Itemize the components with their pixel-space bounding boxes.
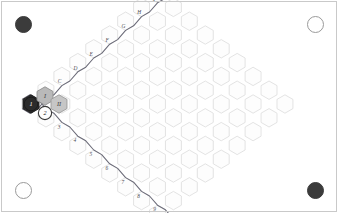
lattice-hexagon xyxy=(150,150,166,168)
lattice-hexagon xyxy=(229,109,245,127)
lattice-hexagon xyxy=(165,164,181,182)
lattice-hexagon xyxy=(70,109,86,127)
lattice-hexagon xyxy=(277,95,293,113)
boundary-label: E xyxy=(89,51,94,57)
lattice-hexagon xyxy=(197,53,213,71)
lattice-hexagon xyxy=(86,95,102,113)
lattice-hexagon xyxy=(229,81,245,99)
lattice-hexagon xyxy=(150,67,166,85)
lattice-hexagon xyxy=(165,136,181,154)
lattice-hexagon xyxy=(229,136,245,154)
lattice-hexagon xyxy=(165,81,181,99)
lattice-hexagon xyxy=(165,109,181,127)
lattice-hexagon xyxy=(102,109,118,127)
lattice-hexagon xyxy=(86,122,102,140)
lattice-hexagon xyxy=(197,136,213,154)
lattice-hexagon xyxy=(118,67,134,85)
lattice-hexagon xyxy=(150,178,166,196)
lattice-hexagon xyxy=(213,95,229,113)
lattice-hexagon xyxy=(134,0,150,17)
lattice-hexagon xyxy=(245,122,261,140)
lattice-hexagon xyxy=(118,40,134,58)
boundary-label: 8 xyxy=(137,193,140,199)
lattice-hexagon xyxy=(181,95,197,113)
boundary-label: 6 xyxy=(105,165,108,171)
lattice-hexagon xyxy=(213,67,229,85)
corner-marker-bottom-right xyxy=(307,182,324,199)
corner-marker-top-left xyxy=(15,16,32,33)
lattice-hexagon xyxy=(245,95,261,113)
lattice-hexagon xyxy=(213,40,229,58)
lattice-hexagon xyxy=(181,122,197,140)
lattice-hexagon xyxy=(165,0,181,17)
boundary-label: 7 xyxy=(121,179,124,185)
highlighted-cell-label: 2 xyxy=(43,109,46,116)
lattice-hexagon xyxy=(86,67,102,85)
lattice-hexagon xyxy=(261,109,277,127)
lattice-hexagon xyxy=(134,81,150,99)
lattice-hexagon xyxy=(118,122,134,140)
lattice-hexagon xyxy=(197,26,213,44)
lattice-hexagon xyxy=(197,164,213,182)
boundary-label: F xyxy=(104,37,109,43)
lattice-hexagon xyxy=(245,67,261,85)
highlighted-cells-layer: 1III2 xyxy=(23,87,67,120)
lattice-hexagon xyxy=(261,81,277,99)
lattice-hexagon xyxy=(181,40,197,58)
lattice-hexagon xyxy=(181,150,197,168)
lattice-hexagon xyxy=(181,178,197,196)
lattice-hexagon xyxy=(181,12,197,30)
lattice-hexagon xyxy=(118,150,134,168)
lattice-hexagon xyxy=(134,109,150,127)
lattice-hexagon xyxy=(150,205,166,213)
lattice-hexagon xyxy=(134,136,150,154)
lattice-hexagon xyxy=(229,53,245,71)
lattice-hexagon xyxy=(165,26,181,44)
lattice-hexagon xyxy=(150,95,166,113)
lattice-hexagon xyxy=(213,150,229,168)
lattice-hexagon xyxy=(150,40,166,58)
lattice-hexagon xyxy=(102,136,118,154)
lattice-hexagon xyxy=(150,12,166,30)
lattice-hexagon xyxy=(197,109,213,127)
lattice-hexagon xyxy=(165,191,181,209)
lattice-hexagon xyxy=(134,164,150,182)
boundary-label: I xyxy=(152,0,155,2)
boundary-label: 3 xyxy=(57,124,61,130)
boundary-label: 5 xyxy=(90,151,93,157)
lattice-hexagon xyxy=(165,53,181,71)
boundary-label: C xyxy=(58,78,62,84)
hexagonal-lattice-figure: ABCDEFGHIJK 1234567891011 1III2 xyxy=(0,0,338,213)
lattice-canvas: ABCDEFGHIJK 1234567891011 1III2 xyxy=(0,0,338,213)
lattice-hexagon xyxy=(102,53,118,71)
boundary-label: 9 xyxy=(153,206,156,212)
boundary-label: D xyxy=(73,65,78,71)
lattice-hexagon xyxy=(134,53,150,71)
corner-marker-bottom-left xyxy=(15,182,32,199)
lattice-hexagon xyxy=(181,67,197,85)
corner-marker-top-right xyxy=(307,16,324,33)
lattice-hexagon xyxy=(197,81,213,99)
lattice-hexagon xyxy=(134,26,150,44)
lattice-hexagon xyxy=(150,122,166,140)
lattice-hexagon xyxy=(118,95,134,113)
boundary-label: 4 xyxy=(74,137,77,143)
lattice-hexagon xyxy=(70,81,86,99)
highlighted-cell-label: 1 xyxy=(29,100,32,107)
lattice-hexagon xyxy=(213,122,229,140)
lattice-hexagon xyxy=(102,81,118,99)
boundary-label: G xyxy=(121,23,125,29)
